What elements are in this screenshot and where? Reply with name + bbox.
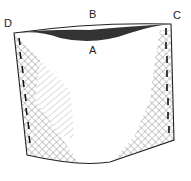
- label-b: B: [89, 8, 96, 20]
- opening-lip: [14, 24, 171, 41]
- pocket-diagram: D B C A: [0, 0, 191, 181]
- label-a: A: [89, 44, 97, 56]
- label-c: C: [173, 9, 181, 21]
- label-d: D: [4, 17, 12, 29]
